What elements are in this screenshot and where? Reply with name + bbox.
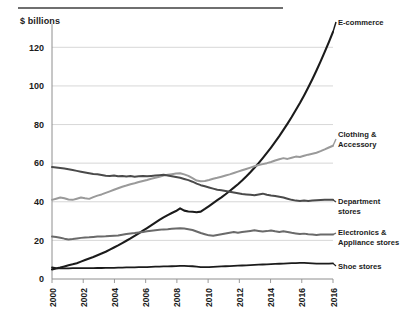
x-axis: 2000200220042006200820102012201420162016 — [48, 279, 339, 307]
series-label-shoe-stores: Shoe stores — [338, 262, 381, 272]
line-chart-plot: 020406080100120 200020022004200620082010… — [0, 0, 420, 329]
x-axis-tick-label: 2012 — [235, 288, 245, 307]
x-axis-tick-label: 2006 — [141, 288, 151, 307]
y-axis-tick-label: 120 — [29, 43, 44, 53]
x-axis-tick-label: 2000 — [48, 288, 58, 307]
x-axis-tick-label: 2016 — [329, 288, 339, 307]
series-leader-line — [333, 200, 336, 202]
gridlines — [52, 47, 333, 279]
series-line — [52, 146, 333, 200]
y-axis-tick-label: 40 — [34, 197, 44, 207]
leader-lines — [333, 22, 336, 266]
x-axis-tick-label: 2004 — [110, 288, 120, 307]
y-axis-tick-label: 0 — [39, 274, 44, 284]
series-leader-line — [333, 233, 336, 235]
y-axis-tick-label: 80 — [34, 120, 44, 130]
chart-figure: $ billions 020406080100120 2000200220042… — [0, 0, 420, 329]
series-label-clothing-accessory: Clothing & Accessory — [338, 130, 376, 149]
series-label-e-commerce: E-commerce — [338, 18, 384, 28]
y-axis-tick-label: 60 — [34, 158, 44, 168]
x-axis-tick-label: 2014 — [266, 288, 276, 307]
series-label-department-stores: Department stores — [338, 197, 380, 216]
series-line — [52, 228, 333, 239]
series-line — [52, 263, 333, 268]
series-leader-line — [333, 22, 336, 32]
y-axis-tick-label: 20 — [34, 236, 44, 246]
y-axis: 020406080100120 — [29, 24, 52, 284]
series-leader-line — [333, 263, 336, 266]
y-axis-tick-label: 100 — [29, 81, 44, 91]
x-axis-tick-label: 2016 — [297, 288, 307, 307]
series-label-electronics-appliance-stores: Electronics & Appliance stores — [338, 228, 399, 247]
series-line — [52, 32, 333, 269]
x-axis-tick-label: 2008 — [172, 288, 182, 307]
series-lines — [52, 32, 333, 269]
series-leader-line — [333, 139, 336, 146]
x-axis-tick-label: 2010 — [204, 288, 214, 307]
x-axis-tick-label: 2002 — [79, 288, 89, 307]
